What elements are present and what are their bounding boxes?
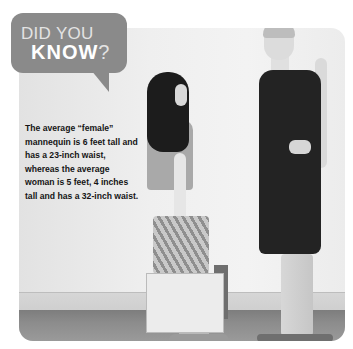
callout-question-mark: ? [98, 41, 110, 63]
woman-dark-dress [259, 70, 321, 254]
callout-know: KNOW [31, 41, 98, 63]
woman-legs [281, 254, 313, 336]
callout-line-2: KNOW? [31, 42, 110, 62]
girl-striped-skirt [153, 216, 209, 274]
woman-shoes [257, 334, 333, 341]
callout-line-1: DID YOU [21, 25, 94, 42]
shopping-bag [146, 273, 224, 333]
woman-hand [289, 140, 311, 154]
girl-sneakers [169, 334, 229, 341]
girl-face [175, 84, 187, 106]
callout-tail [91, 70, 109, 92]
fact-text: The average “female” mannequin is 6 feet… [25, 122, 140, 203]
woman-hair [263, 28, 295, 38]
